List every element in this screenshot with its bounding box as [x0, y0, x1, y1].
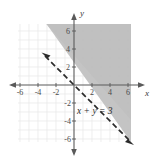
x-axis-arrow-left: [9, 82, 16, 88]
y-tick-label-neg2: -2: [64, 99, 71, 108]
x-tick-label-neg6: -6: [17, 88, 24, 97]
graph-canvas: -6 -4 -2 2 4 6 6 4 2 -2 -4 -6 x y x + y …: [0, 0, 154, 159]
x-tick-label-pos2: 2: [90, 88, 94, 97]
x-tick-label-neg4: -4: [35, 88, 42, 97]
y-tick-label-neg6: -6: [64, 135, 71, 144]
y-tick-label-pos4: 4: [66, 45, 70, 54]
x-tick-label-pos6: 6: [126, 88, 130, 97]
y-axis-arrow-up: [71, 13, 77, 20]
y-tick-label-neg4: -4: [64, 117, 71, 126]
coordinate-graph-figure: -6 -4 -2 2 4 6 6 4 2 -2 -4 -6 x y x + y …: [0, 0, 154, 159]
y-tick-label-pos6: 6: [66, 27, 70, 36]
x-axis-label: x: [144, 88, 149, 98]
y-axis-label: y: [79, 8, 84, 18]
y-tick-label-pos2: 2: [66, 63, 70, 72]
x-tick-label-neg2: -2: [53, 88, 60, 97]
x-axis-arrow-right: [138, 82, 145, 88]
x-tick-label-pos4: 4: [108, 88, 112, 97]
y-axis-arrow-down: [71, 149, 77, 156]
equation-annotation: x + y = 3: [76, 106, 113, 116]
